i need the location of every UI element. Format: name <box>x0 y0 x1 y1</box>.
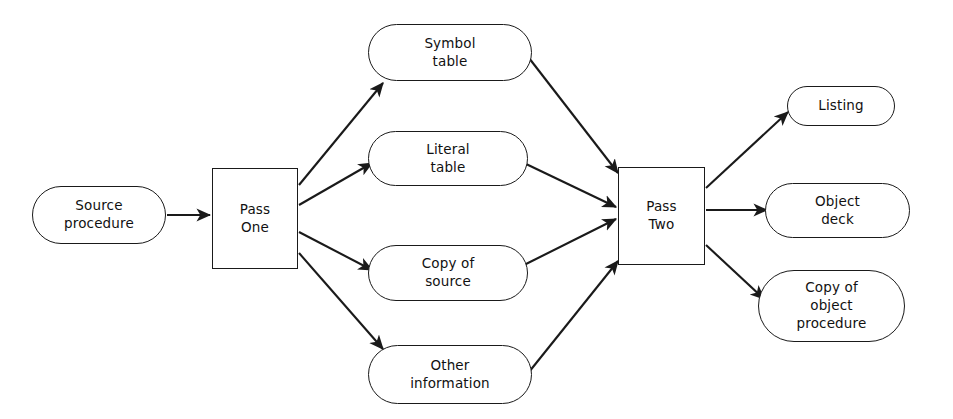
node-object-deck-label: Object deck <box>809 193 866 229</box>
node-copy-of-source: Copy of source <box>368 245 528 301</box>
flow-diagram: Source procedure Pass One Symbol table L… <box>0 0 953 419</box>
node-source-procedure: Source procedure <box>32 186 166 244</box>
node-copy-of-source-label: Copy of source <box>416 255 481 291</box>
edge-literal-table-to-pass-two <box>524 163 616 207</box>
node-other-information-label: Other information <box>404 357 496 393</box>
edge-copy-of-source-to-pass-two <box>524 219 616 265</box>
node-literal-table: Literal table <box>368 131 528 186</box>
edge-pass-one-to-literal-table <box>299 163 372 205</box>
edge-symbol-table-to-pass-two <box>529 58 618 173</box>
node-literal-table-label: Literal table <box>420 141 476 177</box>
node-pass-two-label: Pass Two <box>640 198 682 234</box>
node-listing-label: Listing <box>812 97 870 115</box>
node-copy-of-object-procedure-label: Copy of object procedure <box>791 279 873 332</box>
node-other-information: Other information <box>368 345 532 404</box>
node-source-procedure-label: Source procedure <box>58 197 140 233</box>
node-copy-of-object-procedure: Copy of object procedure <box>758 270 905 342</box>
node-object-deck: Object deck <box>765 183 910 238</box>
edge-pass-two-to-copy-of-object-procedure <box>706 245 764 299</box>
node-listing: Listing <box>787 86 895 126</box>
node-pass-one: Pass One <box>212 168 298 269</box>
node-pass-one-label: Pass One <box>234 201 276 237</box>
edge-other-information-to-pass-two <box>529 261 618 372</box>
node-symbol-table: Symbol table <box>368 24 532 81</box>
edge-pass-two-to-listing <box>706 112 788 188</box>
node-pass-two: Pass Two <box>618 167 705 265</box>
node-symbol-table-label: Symbol table <box>418 35 481 71</box>
